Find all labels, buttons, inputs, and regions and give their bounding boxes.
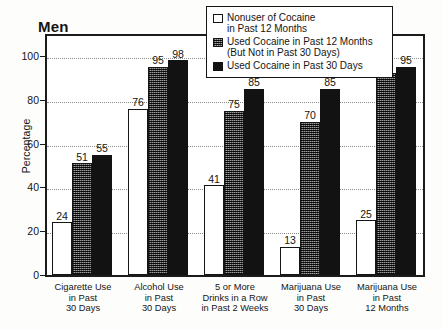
bar-value-label: 24 bbox=[56, 211, 68, 222]
bar: 85 bbox=[244, 89, 264, 275]
bar-value-label: 95 bbox=[400, 55, 412, 66]
legend-item: Nonuser of Cocaine in Past 12 Months bbox=[213, 12, 387, 35]
bar-value-label: 85 bbox=[248, 77, 260, 88]
bar-value-label: 55 bbox=[96, 143, 108, 154]
x-tick-label: Marijuana Usein Past30 Days bbox=[273, 282, 349, 314]
x-tick-label-line: 30 Days bbox=[45, 303, 121, 314]
x-tick-label-line: in Past bbox=[121, 293, 197, 304]
legend-swatch bbox=[213, 62, 223, 71]
legend-item: Used Cocaine in Past 12 Months (But Not … bbox=[213, 36, 387, 59]
bar-value-label: 70 bbox=[304, 110, 316, 121]
bar-value-label: 95 bbox=[152, 55, 164, 66]
y-tick-mark bbox=[40, 187, 45, 188]
bar: 25 bbox=[356, 220, 376, 275]
page-title: Men bbox=[38, 19, 69, 34]
legend-swatch bbox=[213, 38, 223, 47]
x-tick-label-line: Drinks in a Row bbox=[197, 293, 273, 304]
x-tick-label-line: 30 Days bbox=[121, 303, 197, 314]
y-tick-mark bbox=[40, 144, 45, 145]
legend-label: Used Cocaine in Past 30 Days bbox=[227, 60, 363, 71]
bar: 75 bbox=[224, 111, 244, 275]
y-tick-label: 20 bbox=[5, 226, 39, 237]
bar-value-label: 51 bbox=[76, 152, 88, 163]
bar-value-label: 76 bbox=[132, 97, 144, 108]
legend-swatch bbox=[213, 14, 223, 23]
bar: 92 bbox=[376, 73, 396, 275]
x-tick-label-line: in Past bbox=[349, 293, 425, 304]
bar: 95 bbox=[148, 67, 168, 275]
x-tick-label-line: in Past bbox=[273, 293, 349, 304]
bar: 95 bbox=[396, 67, 416, 275]
legend-label: Used Cocaine in Past 12 Months (But Not … bbox=[227, 36, 373, 59]
bar: 85 bbox=[320, 89, 340, 275]
x-tick-label-line: 12 Months bbox=[349, 303, 425, 314]
y-tick-mark bbox=[40, 56, 45, 57]
x-tick-label-line: 30 Days bbox=[273, 303, 349, 314]
bar-chart-figure: Men Percentage 020406080100 245155769598… bbox=[0, 0, 443, 330]
bar-value-label: 98 bbox=[172, 49, 184, 60]
bar: 41 bbox=[204, 185, 224, 275]
bar: 76 bbox=[128, 109, 148, 276]
bar-value-label: 75 bbox=[228, 99, 240, 110]
bar-value-label: 13 bbox=[284, 235, 296, 246]
legend-label: Nonuser of Cocaine in Past 12 Months bbox=[227, 12, 315, 35]
y-tick-label: 80 bbox=[5, 94, 39, 105]
y-tick-mark bbox=[40, 100, 45, 101]
y-tick-mark bbox=[40, 275, 45, 276]
x-tick-label-line: in Past 2 Weeks bbox=[197, 303, 273, 314]
x-tick-label-line: Cigarette Use bbox=[45, 282, 121, 293]
y-tick-label: 0 bbox=[5, 270, 39, 281]
bar: 70 bbox=[300, 122, 320, 275]
bar-value-label: 85 bbox=[324, 77, 336, 88]
bar-value-label: 25 bbox=[360, 209, 372, 220]
x-tick-label-line: Alcohol Use bbox=[121, 282, 197, 293]
legend-item: Used Cocaine in Past 30 Days bbox=[213, 60, 387, 71]
bar: 13 bbox=[280, 247, 300, 275]
x-tick-label: Marijuana Usein Past12 Months bbox=[349, 282, 425, 314]
y-tick-label: 100 bbox=[5, 51, 39, 62]
x-tick-label-line: Marijuana Use bbox=[349, 282, 425, 293]
chart-legend: Nonuser of Cocaine in Past 12 MonthsUsed… bbox=[206, 6, 393, 78]
bar-value-label: 41 bbox=[208, 174, 220, 185]
x-tick-label: Alcohol Usein Past30 Days bbox=[121, 282, 197, 314]
x-tick-label-line: 5 or More bbox=[197, 282, 273, 293]
y-tick-mark bbox=[40, 231, 45, 232]
x-tick-label: Cigarette Usein Past30 Days bbox=[45, 282, 121, 314]
bar: 55 bbox=[92, 155, 112, 276]
y-tick-label: 40 bbox=[5, 182, 39, 193]
x-tick-label-line: in Past bbox=[45, 293, 121, 304]
x-tick-label-line: Marijuana Use bbox=[273, 282, 349, 293]
y-tick-label: 60 bbox=[5, 138, 39, 149]
x-tick-label: 5 or MoreDrinks in a Rowin Past 2 Weeks bbox=[197, 282, 273, 314]
bar: 98 bbox=[168, 60, 188, 275]
bar: 51 bbox=[72, 163, 92, 275]
bar: 24 bbox=[52, 222, 72, 275]
